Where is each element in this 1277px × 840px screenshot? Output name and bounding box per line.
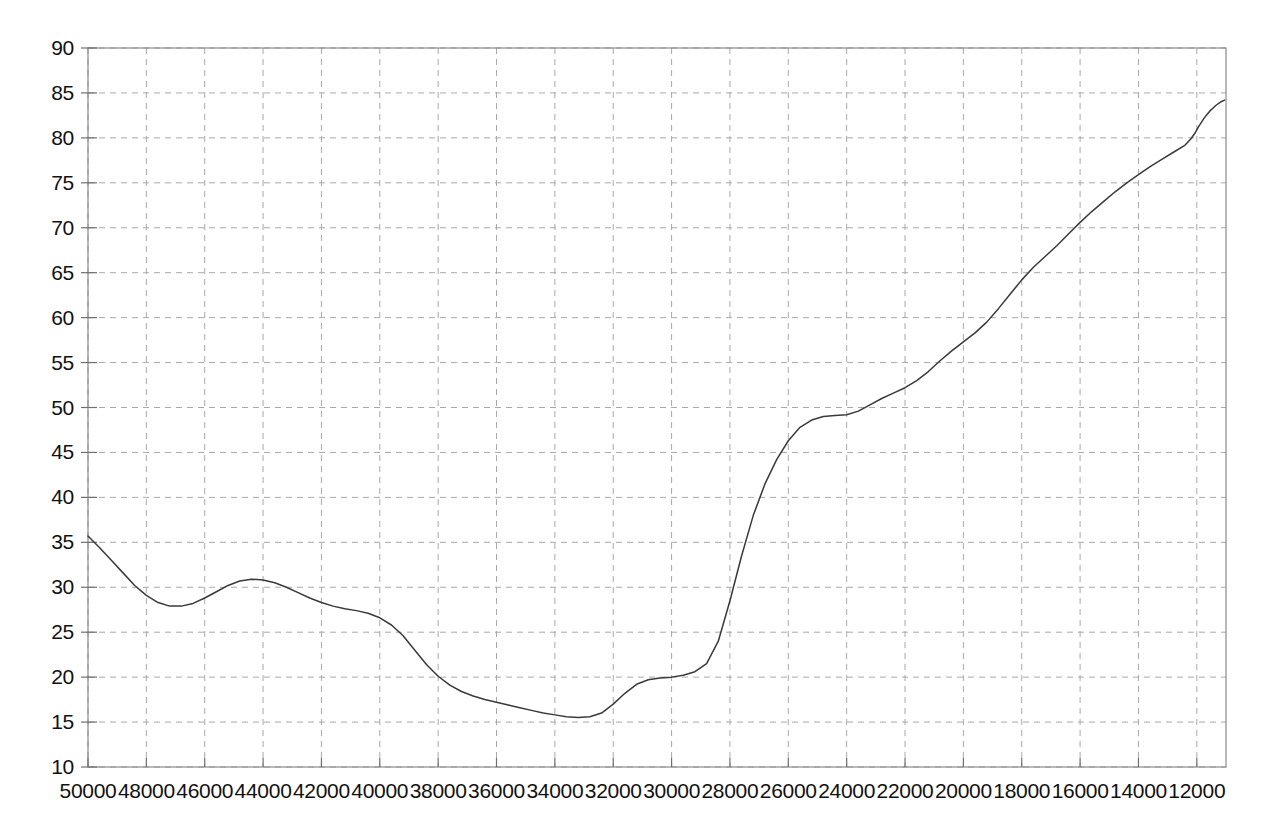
chart-container: 1015202530354045505560657075808590 50000… (0, 0, 1277, 840)
y-tick-label: 90 (51, 36, 74, 60)
y-tick-label: 35 (51, 530, 74, 554)
x-tick-label: 44000 (235, 779, 292, 803)
y-tick-label: 45 (51, 440, 74, 464)
x-tick-label: 12000 (1168, 779, 1225, 803)
x-tick-label: 26000 (760, 779, 817, 803)
spectrum-plot (0, 0, 1277, 840)
x-tick-label: 24000 (818, 779, 875, 803)
x-tick-label: 30000 (643, 779, 700, 803)
x-tick-label: 16000 (1052, 779, 1109, 803)
y-tick-label: 70 (51, 216, 74, 240)
y-tick-label: 80 (51, 126, 74, 150)
x-tick-label: 38000 (410, 779, 467, 803)
x-tick-label: 20000 (935, 779, 992, 803)
x-tick-label: 48000 (118, 779, 175, 803)
y-tick-label: 65 (51, 261, 74, 285)
x-tick-label: 32000 (585, 779, 642, 803)
y-tick-label: 30 (51, 575, 74, 599)
y-tick-label: 25 (51, 620, 74, 644)
y-tick-label: 10 (51, 755, 74, 779)
y-tick-label: 55 (51, 351, 74, 375)
y-tick-label: 60 (51, 306, 74, 330)
x-tick-label: 42000 (293, 779, 350, 803)
x-tick-label: 22000 (877, 779, 934, 803)
x-tick-label: 14000 (1110, 779, 1167, 803)
y-tick-label: 15 (51, 710, 74, 734)
x-tick-label: 18000 (993, 779, 1050, 803)
x-tick-label: 50000 (60, 779, 117, 803)
y-tick-label: 50 (51, 396, 74, 420)
y-tick-label: 85 (51, 81, 74, 105)
y-tick-label: 20 (51, 665, 74, 689)
x-tick-label: 34000 (526, 779, 583, 803)
x-tick-label: 40000 (351, 779, 408, 803)
x-tick-label: 36000 (468, 779, 525, 803)
grid-lines (88, 48, 1226, 767)
x-tick-label: 28000 (701, 779, 758, 803)
data-series-line (88, 100, 1225, 717)
y-tick-label: 75 (51, 171, 74, 195)
y-tick-label: 40 (51, 485, 74, 509)
x-tick-label: 46000 (176, 779, 233, 803)
